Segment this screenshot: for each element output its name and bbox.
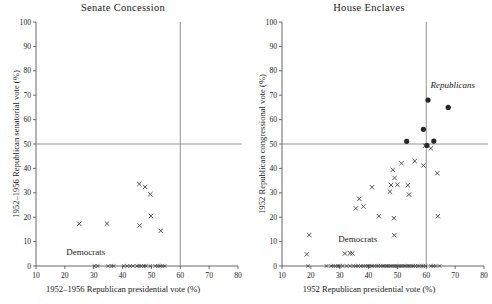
- svg-text:50: 50: [23, 140, 31, 149]
- svg-text:10: 10: [269, 237, 277, 246]
- svg-text:70: 70: [23, 91, 31, 100]
- svg-text:10: 10: [32, 271, 40, 280]
- x-axis-label-right: 1952 Republican presidential vote (%): [246, 284, 492, 294]
- y-axis-label-left: 1952–1956 Republican senatorial vote (%): [11, 22, 21, 266]
- svg-text:40: 40: [23, 164, 31, 173]
- svg-text:40: 40: [365, 271, 373, 280]
- svg-text:20: 20: [307, 271, 315, 280]
- svg-text:Democrats: Democrats: [66, 247, 105, 257]
- svg-text:40: 40: [119, 271, 127, 280]
- chart-panel-senate: Senate Concession 0102030405060708090100…: [0, 0, 246, 304]
- svg-text:20: 20: [269, 213, 277, 222]
- svg-text:60: 60: [269, 115, 277, 124]
- svg-text:40: 40: [269, 164, 277, 173]
- svg-text:80: 80: [480, 271, 488, 280]
- svg-text:80: 80: [269, 66, 277, 75]
- figure-container: Senate Concession 0102030405060708090100…: [0, 0, 492, 304]
- svg-text:0: 0: [27, 262, 31, 271]
- svg-text:100: 100: [266, 18, 278, 27]
- svg-text:10: 10: [278, 271, 286, 280]
- svg-text:Republicans: Republicans: [430, 80, 476, 90]
- svg-text:20: 20: [61, 271, 69, 280]
- svg-text:Democrats: Democrats: [338, 234, 377, 244]
- svg-text:70: 70: [205, 271, 213, 280]
- svg-text:90: 90: [23, 42, 31, 51]
- chart-panel-house: House Enclaves 0102030405060708090100102…: [246, 0, 492, 304]
- svg-text:70: 70: [269, 91, 277, 100]
- svg-text:30: 30: [90, 271, 98, 280]
- svg-text:90: 90: [269, 42, 277, 51]
- svg-text:50: 50: [148, 271, 156, 280]
- svg-text:30: 30: [336, 271, 344, 280]
- svg-text:60: 60: [422, 271, 430, 280]
- svg-text:10: 10: [23, 237, 31, 246]
- svg-text:50: 50: [269, 140, 277, 149]
- svg-text:80: 80: [23, 66, 31, 75]
- scatter-plot-left: 01020304050607080901001020304050607080De…: [0, 0, 246, 304]
- svg-text:50: 50: [394, 271, 402, 280]
- y-axis-label-right: 1952 Republican congressional vote (%): [257, 22, 267, 266]
- svg-text:0: 0: [273, 262, 277, 271]
- svg-text:60: 60: [23, 115, 31, 124]
- svg-text:100: 100: [20, 18, 32, 27]
- scatter-plot-right: 01020304050607080901001020304050607080Re…: [246, 0, 492, 304]
- svg-text:20: 20: [23, 213, 31, 222]
- x-axis-label-left: 1952–1956 Republican presidential vote (…: [0, 284, 246, 294]
- svg-text:80: 80: [234, 271, 242, 280]
- svg-text:30: 30: [269, 188, 277, 197]
- svg-text:30: 30: [23, 188, 31, 197]
- svg-text:60: 60: [176, 271, 184, 280]
- svg-text:70: 70: [451, 271, 459, 280]
